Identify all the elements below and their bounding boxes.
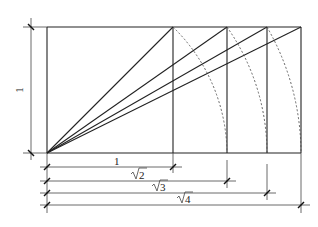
diagonals <box>47 27 301 153</box>
dim-label-sqrt4: 4 <box>177 192 193 205</box>
svg-text:4: 4 <box>185 193 191 205</box>
root-rectangles-diagram: 1 1 2 3 4 <box>0 0 318 227</box>
dim-label-1: 1 <box>114 155 120 167</box>
dim-label-sqrt3: 3 <box>152 180 168 193</box>
vertical-divisions <box>173 27 301 153</box>
dim-label-sqrt2: 2 <box>131 168 147 181</box>
height-dimension: 1 <box>13 18 47 160</box>
rotation-arcs <box>173 27 301 153</box>
width-dimensions <box>40 153 310 213</box>
svg-text:2: 2 <box>139 169 145 181</box>
height-label: 1 <box>13 87 25 93</box>
svg-text:3: 3 <box>160 181 166 193</box>
dimension-labels: 1 2 3 4 <box>114 155 193 205</box>
